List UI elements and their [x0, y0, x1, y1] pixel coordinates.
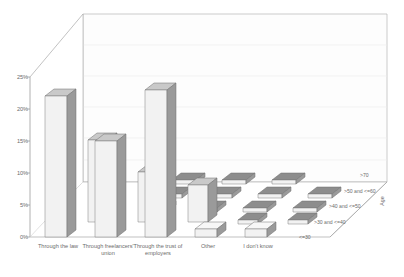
z-axis-label-40-50: >40 and <=50	[329, 203, 361, 209]
x-axis-label-through-the-law: Through the law	[30, 243, 86, 250]
x-axis-label-through-trust-of-employers: Through the trust of employers	[133, 243, 183, 258]
bar-group	[0, 0, 404, 277]
bar-row->50-60	[158, 187, 341, 198]
z-axis-label-30-40: >30 and <=40	[314, 219, 346, 225]
x-axis-label-i-dont-know: I don't know	[234, 243, 282, 250]
x-axis-label-other: Other	[186, 243, 230, 250]
z-axis-label-50-60: >50 and <=60	[344, 188, 376, 194]
z-axis-label-gt70: >70	[360, 172, 369, 178]
bar-row-lte30	[45, 83, 276, 237]
z-axis-label-lte30: <=30	[299, 234, 311, 240]
z-axis-title-age: Age	[379, 196, 385, 205]
chart-3d-bar: 25% 20% 15% 10% 5% 0%	[0, 0, 404, 277]
x-axis-label-through-freelancers-union: Through freelancers' union	[81, 243, 135, 258]
